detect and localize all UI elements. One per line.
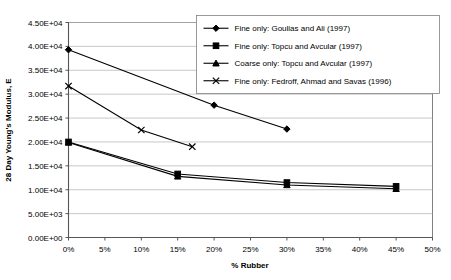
legend-item-label: Coarse only: Topcu and Avcular (1997) [235,59,373,68]
x-tick-label: 0% [63,245,75,254]
chart-legend: Fine only: Goulias and Ali (1997)Fine on… [197,16,440,94]
legend-item-label: Fine only: Topcu and Avcular (1997) [235,42,363,51]
y-tick-label: 2.00E+04 [28,138,63,147]
legend-item-label: Fine only: Fedroff, Ahmad and Savas (199… [235,77,392,86]
y-tick-label: 5.00E+03 [28,210,63,219]
x-tick-label: 45% [388,245,404,254]
x-axis-title: % Rubber [231,261,268,270]
x-tick-label: 10% [133,245,149,254]
x-tick-label: 30% [279,245,295,254]
x-tick-label: 15% [170,245,186,254]
y-tick-label: 3.50E+04 [28,66,63,75]
x-tick-label: 5% [99,245,111,254]
y-tick-label: 1.00E+04 [28,186,63,195]
x-tick-label: 20% [206,245,222,254]
y-axis-title: 28 Day Young's Modulus, E [4,78,13,182]
y-tick-label: 1.50E+04 [28,162,63,171]
y-tick-label: 0.00E+00 [28,234,63,243]
y-tick-label: 2.50E+04 [28,114,63,123]
y-tick-label: 4.50E+04 [28,19,63,28]
young-modulus-line-chart: 0%5%10%15%20%25%30%35%40%45%50% 0.00E+00… [0,0,451,280]
x-tick-label: 25% [242,245,258,254]
legend-item-label: Fine only: Goulias and Ali (1997) [235,24,351,33]
y-tick-label: 4.00E+04 [28,42,63,51]
x-tick-label: 35% [315,245,331,254]
y-tick-label: 3.00E+04 [28,90,63,99]
x-tick-label: 40% [352,245,368,254]
x-tick-label: 50% [424,245,440,254]
square-marker [213,43,219,49]
chart-container: 0%5%10%15%20%25%30%35%40%45%50% 0.00E+00… [0,0,451,280]
